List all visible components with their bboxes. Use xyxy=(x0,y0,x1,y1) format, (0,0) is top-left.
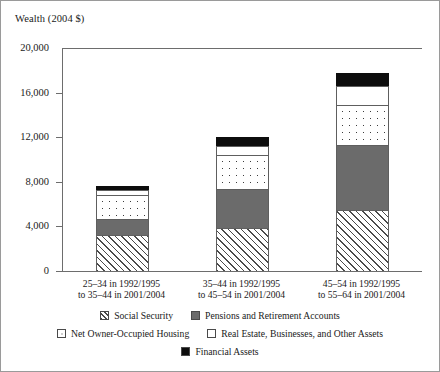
stacked-bar[interactable] xyxy=(336,73,389,271)
bar-segment[interactable] xyxy=(336,105,389,145)
figure-panel: Wealth (2004 $) 04,0008,00012,00016,0002… xyxy=(0,0,440,372)
chart-legend: Social SecurityPensions and Retirement A… xyxy=(1,306,439,360)
plot-area xyxy=(62,48,422,271)
x-axis-line xyxy=(62,271,422,272)
bar-segment[interactable] xyxy=(336,73,389,86)
legend-row: Social SecurityPensions and Retirement A… xyxy=(1,306,439,324)
stacked-bar[interactable] xyxy=(216,137,269,271)
bar-segment[interactable] xyxy=(216,155,269,188)
legend-swatch-icon xyxy=(100,311,109,320)
bar-segment[interactable] xyxy=(96,219,149,235)
bar-segment[interactable] xyxy=(96,195,149,218)
legend-row: Net Owner-Occupied HousingReal Estate, B… xyxy=(1,324,439,342)
legend-label: Real Estate, Businesses, and Other Asset… xyxy=(221,328,383,339)
bar-segment[interactable] xyxy=(216,228,269,271)
legend-swatch-icon xyxy=(181,347,190,356)
bar-segment[interactable] xyxy=(96,235,149,271)
x-axis-category-line: 45–54 in 1992/1995 xyxy=(287,278,437,289)
y-axis-tick-label: 20,000 xyxy=(1,43,49,54)
legend-label: Social Security xyxy=(114,310,173,321)
bar-segment[interactable] xyxy=(336,210,389,271)
stacked-bar[interactable] xyxy=(96,186,149,271)
legend-item[interactable]: Pensions and Retirement Accounts xyxy=(191,310,340,321)
y-axis-tick-label: 12,000 xyxy=(1,132,49,143)
legend-label: Net Owner-Occupied Housing xyxy=(71,328,189,339)
bar-segment[interactable] xyxy=(336,86,389,105)
legend-item[interactable]: Net Owner-Occupied Housing xyxy=(57,328,189,339)
bar-segment[interactable] xyxy=(96,186,149,190)
legend-row: Financial Assets xyxy=(1,342,439,360)
x-axis-category-label: 45–54 in 1992/1995to 55–64 in 2001/2004 xyxy=(287,278,437,301)
bar-segment[interactable] xyxy=(216,137,269,146)
bar-segment[interactable] xyxy=(96,190,149,195)
y-axis-title: Wealth (2004 $) xyxy=(15,13,84,24)
legend-label: Financial Assets xyxy=(195,346,258,357)
x-axis-category-line: to 55–64 in 2001/2004 xyxy=(287,289,437,300)
bar-segment[interactable] xyxy=(216,189,269,228)
legend-item[interactable]: Social Security xyxy=(100,310,173,321)
y-axis-tick-label: 16,000 xyxy=(1,87,49,98)
legend-label: Pensions and Retirement Accounts xyxy=(205,310,340,321)
y-axis-tick-label: 0 xyxy=(1,266,49,277)
legend-swatch-icon xyxy=(57,329,66,338)
legend-item[interactable]: Real Estate, Businesses, and Other Asset… xyxy=(207,328,383,339)
legend-swatch-icon xyxy=(207,329,216,338)
y-axis-tick-label: 8,000 xyxy=(1,177,49,188)
bar-segment[interactable] xyxy=(336,145,389,210)
legend-item[interactable]: Financial Assets xyxy=(181,346,258,357)
y-axis-tick-label: 4,000 xyxy=(1,221,49,232)
bar-segment[interactable] xyxy=(216,146,269,155)
legend-swatch-icon xyxy=(191,311,200,320)
